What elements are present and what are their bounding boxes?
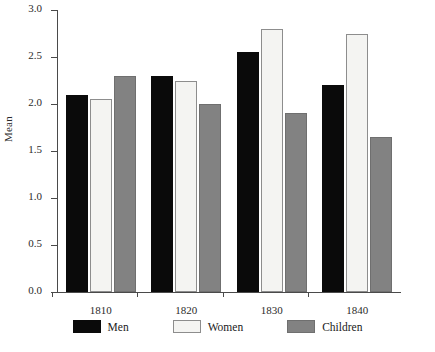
y-axis-tick-label: 0.0 [28,284,42,296]
bar-women-1840 [346,34,368,293]
y-axis-tick-label: 1.0 [28,190,42,202]
bar-chart: Mean 0.00.51.01.52.02.53.0 1810182018301… [0,0,435,352]
bar-men-1840 [322,85,344,292]
legend-swatch-women [173,320,201,333]
x-axis-tick [52,292,53,297]
bar-children-1810 [114,76,136,292]
y-axis-tick-label: 0.5 [28,237,42,249]
y-axis-tick-label: 2.0 [28,96,42,108]
y-axis-tick-label: 2.5 [28,49,42,61]
y-axis-tick-label: 3.0 [28,2,42,14]
y-axis-tick-label: 1.5 [28,143,42,155]
legend-label-children: Children [322,321,362,333]
legend-item-children: Children [287,320,362,333]
y-axis-title: Mean [2,82,14,142]
x-axis-line [57,292,401,293]
legend-item-men: Men [73,320,129,333]
bar-men-1820 [151,76,173,292]
x-axis-tick-label: 1840 [322,304,392,316]
x-axis-tick-label: 1820 [151,304,221,316]
legend-label-women: Women [208,321,243,333]
plot-area: 0.00.51.01.52.02.53.0 1810182018301840 [58,10,400,292]
bar-children-1840 [370,137,392,292]
legend-swatch-men [73,320,101,333]
y-axis-tick: 2.0 [51,104,58,105]
bar-men-1810 [66,95,88,292]
x-axis-tick [308,292,309,297]
chart-legend: MenWomenChildren [0,320,435,333]
bar-women-1810 [90,99,112,292]
x-axis-tick-label: 1810 [66,304,136,316]
x-axis-tick-label: 1830 [237,304,307,316]
bar-children-1830 [285,113,307,292]
y-axis-tick: 2.5 [51,57,58,58]
legend-item-women: Women [173,320,243,333]
legend-swatch-children [287,320,315,333]
x-axis-tick [137,292,138,297]
bar-women-1820 [175,81,197,293]
y-axis-tick: 1.0 [51,198,58,199]
y-axis-tick: 3.0 [51,10,58,11]
y-axis-tick: 1.5 [51,151,58,152]
y-axis-tick: 0.5 [51,245,58,246]
bar-men-1830 [237,52,259,292]
legend-label-men: Men [108,321,129,333]
bar-women-1830 [261,29,283,292]
bar-children-1820 [199,104,221,292]
x-axis-tick [223,292,224,297]
